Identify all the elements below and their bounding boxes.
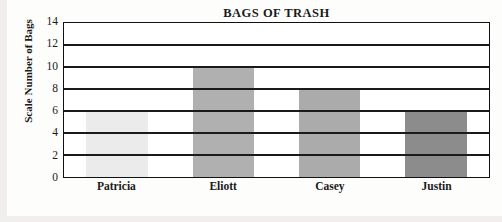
chart-title: BAGS OF TRASH	[63, 6, 490, 21]
gridline	[64, 110, 489, 112]
x-axis-tick-label: Patricia	[63, 180, 170, 192]
gridline	[64, 88, 489, 90]
gridline	[64, 154, 489, 156]
bar-patricia	[86, 111, 148, 177]
y-axis-tick-label: 12	[24, 39, 58, 51]
y-axis-tick-label: 0	[24, 172, 58, 184]
x-axis-tick-label: Justin	[383, 180, 490, 192]
bar-justin	[405, 111, 467, 177]
y-axis-tick-label: 2	[24, 150, 58, 162]
x-axis-tick-labels: PatriciaEliottCaseyJustin	[63, 180, 490, 192]
bar-chart-figure: BAGS OF TRASH Scale Number of Bags 02468…	[0, 0, 502, 222]
gridline	[64, 132, 489, 134]
y-axis-tick-label: 14	[24, 16, 58, 28]
scan-artifact-bottom	[0, 216, 502, 222]
gridline	[64, 44, 489, 46]
y-axis-tick-label: 4	[24, 128, 58, 140]
bar-eliott	[193, 67, 255, 177]
y-axis-tick-label: 8	[24, 83, 58, 95]
x-axis-tick-label: Casey	[277, 180, 384, 192]
y-axis-tick-label: 10	[24, 61, 58, 73]
x-axis-tick-label: Eliott	[170, 180, 277, 192]
scan-artifact-left	[0, 0, 7, 222]
gridline	[64, 66, 489, 68]
y-axis-tick-labels: 02468101214	[24, 22, 58, 178]
y-axis-tick-label: 6	[24, 105, 58, 117]
plot-area	[63, 22, 490, 178]
